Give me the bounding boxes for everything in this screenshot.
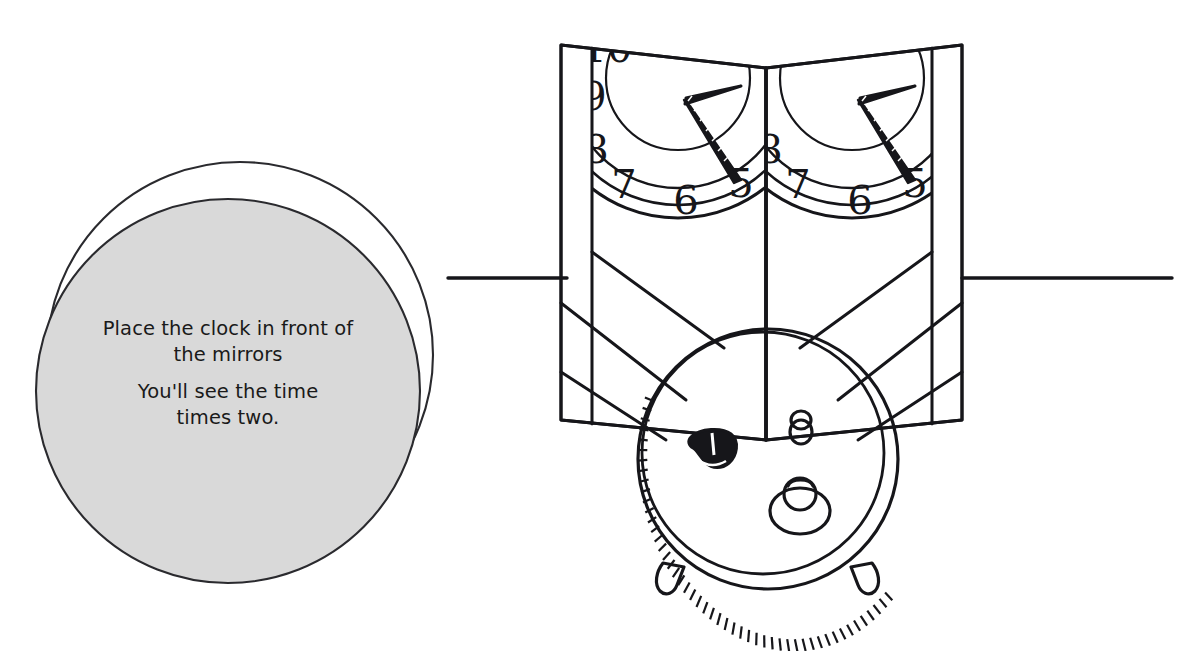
reflected-numeral-8: 8: [583, 126, 608, 172]
reflected-numeral-9: 9: [581, 73, 606, 119]
reflected-hand-hatching: [688, 96, 729, 161]
sight-line-rays: [561, 252, 962, 440]
bubble-gray-circle: [36, 199, 420, 583]
ray-upper-left: [592, 252, 724, 348]
reflected-clock-rim-inner-2: [725, 0, 979, 205]
reflected-minute-hand: [685, 86, 741, 104]
reflected-minute-hand-2: [859, 86, 915, 104]
right-foot: [851, 563, 879, 594]
reflected-numeral-7-2: 7: [785, 161, 810, 207]
ray-upper-right: [800, 252, 932, 348]
winding-key[interactable]: [790, 411, 812, 444]
left-foot: [656, 563, 684, 594]
hinged-mirror-pair[interactable]: 5 6 7 8 9 10: [538, 0, 992, 440]
reflected-numeral-7: 7: [611, 161, 636, 207]
illustration-scene: 5 6 7 8 9 10: [0, 0, 1201, 651]
right-mirror-reflection: 5 6 7 8: [712, 0, 992, 223]
alarm-set-knob[interactable]: [770, 478, 830, 534]
reflected-hand-hatching-2: [862, 96, 903, 161]
winding-key-shaft: [790, 420, 812, 444]
alarm-set-knob-cap: [788, 480, 813, 486]
reflected-clock-minute-track: [606, 6, 750, 150]
scene-vector-art: 5 6 7 8 9 10: [0, 0, 1201, 651]
reflected-clock-minute-track-2: [780, 6, 924, 150]
alarm-clock-rear-view[interactable]: [638, 329, 898, 651]
clock-back-plate: [642, 332, 884, 574]
alarm-switch-lever-highlight: [712, 433, 714, 455]
reflected-numeral-6: 6: [673, 177, 698, 223]
instruction-bubble: [36, 162, 433, 583]
reflected-numeral-6-2: 6: [847, 177, 872, 223]
left-mirror-reflection: 5 6 7 8 9 10: [538, 0, 818, 223]
